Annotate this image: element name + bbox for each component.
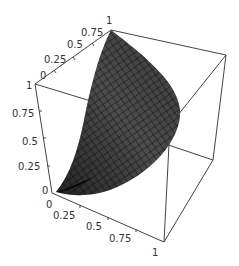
left-tick-0: 1	[26, 80, 32, 91]
top-tick-1: 0.25	[44, 54, 66, 65]
top-tick-2: 0.5	[67, 39, 83, 50]
plot-canvas: 0 0.25 0.5 0.75 1 1 0.75 0.5 0.25 0 0 0.…	[0, 0, 239, 266]
bottom-axis-labels: 0 0.25 0.5 0.75 1	[46, 199, 158, 258]
left-tick-4: 0	[42, 185, 48, 196]
bottom-tick-3: 0.75	[109, 233, 131, 244]
left-tick-1: 0.75	[12, 108, 34, 119]
surface	[56, 30, 180, 195]
surface-plot: 0 0.25 0.5 0.75 1 1 0.75 0.5 0.25 0 0 0.…	[0, 0, 239, 266]
top-tick-3: 0.75	[81, 27, 103, 38]
left-tick-2: 0.5	[22, 136, 38, 147]
top-tick-4: 1	[106, 15, 112, 26]
top-tick-0: 0	[40, 70, 46, 81]
bottom-tick-4: 1	[152, 247, 158, 258]
bottom-tick-2: 0.5	[86, 221, 102, 232]
bottom-tick-1: 0.25	[53, 210, 75, 221]
bottom-tick-0: 0	[46, 199, 52, 210]
left-tick-3: 0.25	[18, 161, 40, 172]
